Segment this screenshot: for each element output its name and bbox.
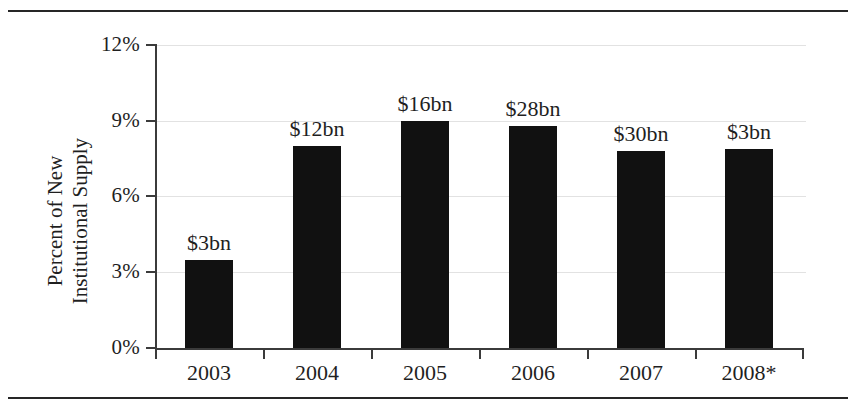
gridline-6	[156, 196, 806, 197]
x-axis-tick-label-2003: 2003	[149, 360, 269, 386]
y-axis-title: Percent of New Institutional Supply	[43, 91, 93, 351]
bar-2008	[725, 149, 773, 348]
bar-chart-plot-area: 12% 9% 6% 3% 0% Percent of New Instituti…	[0, 0, 856, 420]
gridline-12	[156, 45, 806, 46]
y-axis-tick-9	[146, 120, 156, 122]
x-axis-tick-6	[802, 349, 804, 359]
bar-2004	[293, 146, 341, 348]
y-axis-title-line-2: Institutional Supply	[68, 91, 93, 351]
figure-container: 12% 9% 6% 3% 0% Percent of New Instituti…	[0, 0, 856, 420]
x-axis-tick-0	[155, 349, 157, 359]
bar-value-label-2007: $30bn	[581, 122, 701, 146]
x-axis-tick-4	[587, 349, 589, 359]
bar-value-label-2004: $12bn	[257, 117, 377, 141]
x-axis-tick-3	[479, 349, 481, 359]
gridline-3	[156, 272, 806, 273]
y-axis-tick-label-12: 12%	[76, 34, 140, 55]
y-axis-tick-12	[146, 44, 156, 46]
x-axis-tick-label-2004: 2004	[257, 360, 377, 386]
y-axis-tick-6	[146, 195, 156, 197]
y-axis-line	[155, 44, 157, 350]
bar-2007	[617, 151, 665, 348]
x-axis-tick-1	[263, 349, 265, 359]
bar-value-label-2008: $3bn	[689, 120, 809, 144]
x-axis-tick-2	[371, 349, 373, 359]
bar-value-label-2005: $16bn	[365, 92, 485, 116]
y-axis-tick-3	[146, 271, 156, 273]
bar-value-label-2006: $28bn	[473, 97, 593, 121]
x-axis-tick-label-2007: 2007	[581, 360, 701, 386]
y-axis-title-line-1: Percent of New	[43, 91, 68, 351]
bar-2006	[509, 126, 557, 348]
x-axis-tick-label-2008: 2008*	[689, 360, 809, 386]
bar-value-label-2003: $3bn	[149, 231, 269, 255]
x-axis-tick-label-2006: 2006	[473, 360, 593, 386]
bar-2005	[401, 121, 449, 348]
x-axis-tick-5	[695, 349, 697, 359]
x-axis-tick-label-2005: 2005	[365, 360, 485, 386]
bar-2003	[185, 260, 233, 348]
